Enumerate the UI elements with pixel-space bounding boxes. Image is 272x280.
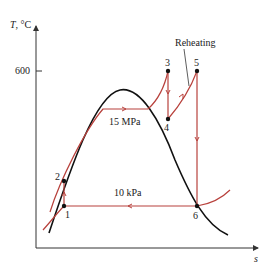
state-point-5	[195, 69, 199, 73]
x-axis-label: s	[254, 253, 258, 264]
state-point-1	[62, 204, 66, 208]
ts-diagram-canvas: T, °C s 600 Reheating 15 MPa 10 kPa 1 2 …	[0, 0, 272, 280]
reheating-label: Reheating	[175, 37, 216, 48]
state-point-6	[195, 204, 199, 208]
state-point-2	[62, 179, 66, 183]
reheating-leader	[184, 49, 189, 86]
isobar-15mpa	[50, 71, 168, 212]
state-label-1: 1	[65, 209, 70, 220]
label-15mpa: 15 MPa	[109, 116, 141, 127]
y-tick-label-600: 600	[15, 65, 30, 76]
state-point-3	[166, 69, 170, 73]
state-label-3: 3	[165, 57, 170, 68]
arrow-4-5	[179, 94, 183, 99]
state-point-4	[166, 117, 170, 121]
saturation-dome	[49, 90, 228, 235]
ts-diagram: T, °C s 600 Reheating 15 MPa 10 kPa 1 2 …	[0, 0, 272, 280]
state-label-2: 2	[55, 171, 60, 182]
state-label-6: 6	[193, 210, 198, 221]
state-label-5: 5	[194, 57, 199, 68]
y-axis-label: T, °C	[10, 19, 32, 30]
state-label-4: 4	[164, 122, 169, 133]
label-10kpa: 10 kPa	[114, 187, 142, 198]
